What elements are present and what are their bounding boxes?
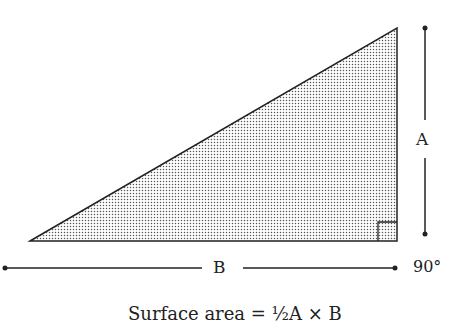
triangle-diagram	[0, 0, 471, 330]
base-dimension-line	[3, 266, 398, 271]
formula-caption: Surface area = ½A × B	[128, 305, 342, 323]
base-label: B	[213, 259, 226, 276]
angle-label: 90°	[413, 259, 441, 275]
height-label: A	[416, 131, 428, 148]
right-triangle	[30, 28, 397, 241]
